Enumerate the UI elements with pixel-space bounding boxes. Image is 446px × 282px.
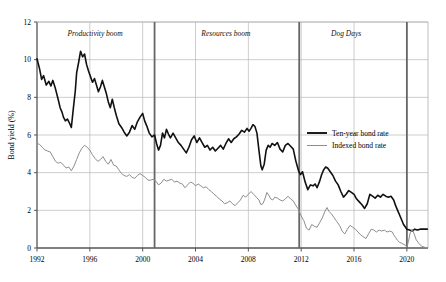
legend-entry-label: Ten-year bond rate <box>332 129 389 138</box>
x-tick-label: 2016 <box>347 255 362 264</box>
era-annotation-label: Productivity boom <box>66 29 123 38</box>
chart-canvas: 024681012 199219962000200420082012201620… <box>0 0 446 282</box>
y-tick-label: 0 <box>27 244 31 253</box>
y-tick-label: 6 <box>27 131 31 140</box>
y-tick-label: 2 <box>27 206 31 215</box>
x-tick-label: 2000 <box>135 255 150 264</box>
y-tick-label: 12 <box>24 18 32 27</box>
y-tick-label: 10 <box>24 55 32 64</box>
legend-entry-label: Indexed bond rate <box>332 141 387 150</box>
x-tick-label: 1992 <box>30 255 45 264</box>
x-tick-label: 2004 <box>188 255 203 264</box>
x-tick-label: 1996 <box>82 255 97 264</box>
x-tick-label: 2008 <box>241 255 256 264</box>
x-tick-label: 2012 <box>294 255 309 264</box>
y-tick-label: 8 <box>27 93 31 102</box>
x-tick-label: 2020 <box>399 255 414 264</box>
bond-yield-chart: 024681012 199219962000200420082012201620… <box>0 0 446 282</box>
y-axis-title: Bond yield (%) <box>7 110 16 160</box>
era-annotation-label: Dog Days <box>330 29 361 38</box>
y-tick-label: 4 <box>27 168 31 177</box>
era-annotation-label: Resources boom <box>200 29 251 38</box>
